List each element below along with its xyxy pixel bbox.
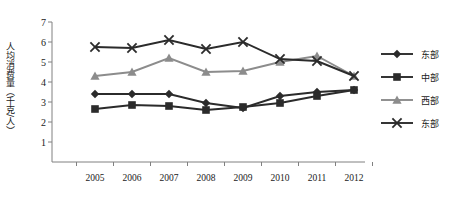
- data-point: [91, 105, 99, 113]
- legend-item-1[interactable]: [381, 73, 413, 81]
- data-point: [202, 99, 210, 107]
- data-point: [128, 90, 136, 98]
- legend-item-2[interactable]: [381, 95, 413, 103]
- series-2: [90, 51, 358, 79]
- data-point: [91, 90, 99, 98]
- data-point: [165, 102, 173, 110]
- data-point: [165, 90, 173, 98]
- legend-item-0[interactable]: [381, 50, 413, 58]
- line-chart: 人均消费量（千克/人） 1 2 3 4 5 6 7 2005 2006 2007…: [0, 0, 463, 211]
- legend-layer: [381, 50, 413, 128]
- data-point: [239, 103, 247, 111]
- data-point: [164, 53, 173, 61]
- data-point: [350, 86, 358, 94]
- legend-marker-diamond-icon: [393, 50, 401, 58]
- data-point: [128, 101, 136, 109]
- plot-area: [0, 0, 463, 211]
- legend-item-3[interactable]: [381, 118, 413, 127]
- series-layer: [90, 35, 358, 113]
- data-point: [202, 106, 210, 114]
- data-point: [313, 92, 321, 100]
- data-point: [276, 92, 284, 100]
- data-point: [276, 99, 284, 107]
- legend-marker-square-icon: [393, 73, 401, 81]
